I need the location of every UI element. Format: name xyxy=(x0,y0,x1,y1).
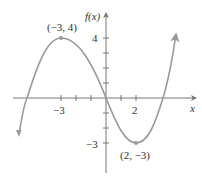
y-tick-label-neg3: −3 xyxy=(86,138,98,150)
x-tick-label-2: 2 xyxy=(132,104,138,116)
point-max xyxy=(59,36,63,40)
x-tick-label-neg3: −3 xyxy=(53,104,65,116)
curve-left-arrow-icon xyxy=(16,130,22,137)
y-axis-label: f(x) xyxy=(85,10,101,23)
y-tick-label-4: 4 xyxy=(92,32,98,44)
annotation-min: (2, −3) xyxy=(120,149,150,162)
annotation-max: (−3, 4) xyxy=(47,21,77,34)
function-graph: f(x) x −3 2 4 −3 (−3, 4) (2, −3) xyxy=(0,0,202,179)
point-min xyxy=(134,141,138,145)
function-curve xyxy=(19,34,176,143)
x-axis-label: x xyxy=(189,102,195,114)
